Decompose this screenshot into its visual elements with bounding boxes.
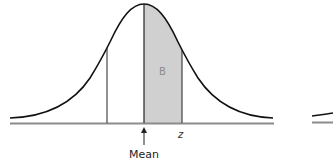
z-label: z — [177, 129, 184, 140]
mean-label: Mean — [129, 148, 159, 161]
partial-next-curve — [312, 113, 333, 116]
shaded-region-b — [144, 4, 182, 123]
normal-curve-figure: B z Mean — [0, 0, 333, 163]
bell-curve — [10, 4, 273, 118]
region-label-b: B — [159, 66, 166, 77]
mean-arrow-icon — [141, 127, 147, 133]
normal-curve-diagram: B z Mean — [0, 0, 333, 163]
